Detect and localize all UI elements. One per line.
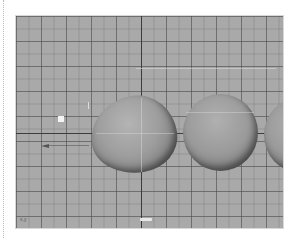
sphere-partial-object[interactable] bbox=[264, 98, 284, 172]
sphere-object[interactable] bbox=[183, 94, 258, 171]
axis-gizmo-icon: x,y bbox=[20, 216, 26, 222]
sphere-wire-horizontal bbox=[186, 112, 254, 113]
3d-viewport[interactable]: x,y bbox=[15, 15, 284, 229]
arrow-left-icon bbox=[41, 144, 49, 148]
page-edge-divider bbox=[3, 0, 4, 238]
faint-guide-line bbox=[136, 68, 276, 69]
hud-label bbox=[140, 218, 152, 221]
locator-tick-icon bbox=[88, 102, 89, 109]
light-icon[interactable] bbox=[58, 116, 64, 122]
direction-line bbox=[49, 145, 89, 146]
egg-wire-vertical bbox=[141, 98, 142, 172]
egg-shape-object[interactable] bbox=[86, 90, 182, 178]
egg-wire-horizontal bbox=[96, 133, 174, 134]
